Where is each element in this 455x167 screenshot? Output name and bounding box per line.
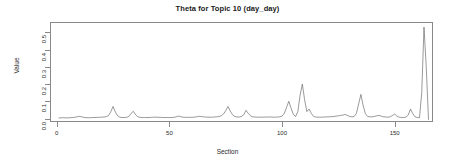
y-tick-mark (45, 50, 50, 51)
x-tick-mark (57, 122, 58, 127)
y-tick-label: 0.2 (41, 83, 47, 99)
data-line-series (50, 22, 433, 122)
y-tick-label: 0.1 (41, 100, 47, 116)
y-tick-mark (45, 84, 50, 85)
x-tick-label: 100 (272, 130, 292, 136)
y-axis-tick-labels: 0.00.10.20.30.40.5 (28, 0, 44, 167)
y-tick-label: 0.4 (41, 49, 47, 65)
y-tick-mark (45, 67, 50, 68)
x-tick-label: 50 (159, 130, 179, 136)
x-tick-mark (282, 122, 283, 127)
x-tick-label: 150 (385, 130, 405, 136)
chart-container: Theta for Topic 10 (day_day) Value 0.00.… (0, 0, 455, 167)
x-axis-label: Section (0, 148, 455, 155)
y-tick-mark (45, 101, 50, 102)
x-tick-mark (169, 122, 170, 127)
x-tick-mark (395, 122, 396, 127)
y-tick-label: 0.3 (41, 66, 47, 82)
y-tick-label: 0.5 (41, 31, 47, 47)
chart-title: Theta for Topic 10 (day_day) (0, 4, 455, 13)
theta-line (59, 27, 428, 119)
y-tick-mark (45, 32, 50, 33)
y-tick-mark (45, 119, 50, 120)
x-tick-label: 0 (47, 130, 67, 136)
y-axis-label: Value (13, 46, 20, 86)
